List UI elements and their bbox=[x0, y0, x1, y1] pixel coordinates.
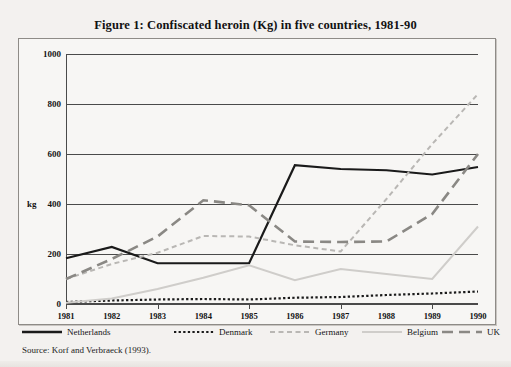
y-axis-tick-labels: 02004006008001000 bbox=[19, 54, 61, 304]
legend-swatch-icon bbox=[174, 327, 214, 337]
legend-swatch-icon bbox=[362, 327, 402, 337]
legend-item-belgium[interactable]: Belgium bbox=[362, 327, 438, 337]
x-tick-label: 1990 bbox=[469, 311, 486, 321]
x-tick-label: 1984 bbox=[195, 311, 212, 321]
source-note: Source: Korf and Verbraeck (1993). bbox=[22, 345, 151, 355]
x-tick-label: 1985 bbox=[241, 311, 258, 321]
legend-swatch-icon bbox=[270, 327, 310, 337]
x-tick-label: 1986 bbox=[286, 311, 303, 321]
series-line-netherlands bbox=[66, 165, 478, 263]
gridline-0 bbox=[66, 304, 478, 305]
y-tick-label: 800 bbox=[48, 99, 62, 109]
legend-label: Belgium bbox=[407, 327, 438, 337]
x-tick bbox=[66, 304, 67, 309]
y-tick-label: 1000 bbox=[43, 49, 61, 59]
legend-label: Denmark bbox=[219, 327, 253, 337]
series-line-belgium bbox=[66, 227, 478, 303]
legend-item-uk[interactable]: UK bbox=[442, 327, 500, 337]
x-tick bbox=[158, 304, 159, 309]
x-tick-label: 1987 bbox=[332, 311, 349, 321]
y-tick-label: 200 bbox=[48, 249, 62, 259]
y-axis-title: kg bbox=[27, 199, 37, 209]
series-line-denmark bbox=[66, 292, 478, 303]
x-axis-tick-labels: 1981198219831984198519861987198819891990 bbox=[66, 311, 478, 325]
page-title: Figure 1: Confiscated heroin (Kg) in fiv… bbox=[0, 18, 511, 33]
y-tick-label: 400 bbox=[48, 199, 62, 209]
legend-label: Germany bbox=[315, 327, 349, 337]
legend-item-netherlands[interactable]: Netherlands bbox=[22, 327, 110, 337]
x-tick bbox=[249, 304, 250, 309]
x-tick-label: 1983 bbox=[149, 311, 166, 321]
x-tick-label: 1982 bbox=[103, 311, 120, 321]
series-line-germany bbox=[66, 94, 478, 279]
series-lines bbox=[66, 54, 478, 304]
x-tick-label: 1989 bbox=[424, 311, 441, 321]
legend-label: UK bbox=[487, 327, 500, 337]
y-tick-label: 600 bbox=[48, 149, 62, 159]
x-tick-label: 1988 bbox=[378, 311, 395, 321]
x-tick bbox=[432, 304, 433, 309]
legend-item-denmark[interactable]: Denmark bbox=[174, 327, 253, 337]
plot-area bbox=[66, 54, 478, 304]
legend-swatch-icon bbox=[22, 327, 62, 337]
legend-label: Netherlands bbox=[67, 327, 110, 337]
x-tick bbox=[341, 304, 342, 309]
chart-legend: NetherlandsDenmarkGermanyBelgiumUK bbox=[22, 327, 492, 341]
figure-page: Figure 1: Confiscated heroin (Kg) in fiv… bbox=[0, 0, 511, 367]
y-tick-label: 0 bbox=[57, 299, 62, 309]
chart-frame: 02004006008001000 kg 1981198219831984198… bbox=[18, 38, 496, 325]
x-tick-label: 1981 bbox=[57, 311, 74, 321]
legend-item-germany[interactable]: Germany bbox=[270, 327, 349, 337]
legend-swatch-icon bbox=[442, 327, 482, 337]
